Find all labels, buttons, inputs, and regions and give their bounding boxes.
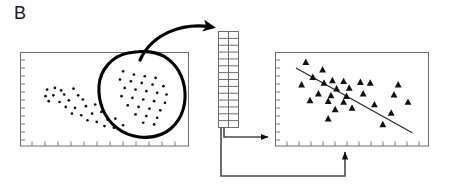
data-point [126, 104, 129, 107]
data-point [133, 73, 136, 76]
data-point [85, 105, 88, 108]
data-point [44, 95, 47, 98]
data-point [64, 106, 67, 109]
data-point [60, 89, 63, 92]
data-point [81, 98, 84, 101]
data-point [123, 87, 126, 90]
data-point [165, 93, 168, 96]
data-point [142, 121, 145, 124]
data-point [153, 123, 156, 126]
data-point [86, 119, 89, 122]
data-point [134, 88, 137, 91]
data-point [159, 109, 162, 112]
data-point [72, 87, 75, 90]
data-point [140, 82, 143, 85]
data-point [80, 114, 83, 117]
data-point [47, 100, 50, 103]
data-point [130, 80, 133, 83]
data-point [156, 116, 159, 119]
result-scatter-plot [276, 53, 429, 147]
data-point [145, 90, 148, 93]
data-point [120, 95, 123, 98]
data-point [153, 100, 156, 103]
data-point [103, 125, 106, 128]
feature-matrix [219, 32, 239, 128]
data-point [142, 98, 145, 101]
data-point [52, 94, 55, 97]
data-point [156, 92, 159, 95]
data-point [137, 106, 140, 109]
data-point [151, 83, 154, 86]
data-point [131, 96, 134, 99]
data-point [143, 75, 146, 78]
data-point [63, 93, 66, 96]
data-point [94, 103, 97, 106]
grid-to-plot-y-arrow [224, 128, 268, 138]
data-point [134, 113, 137, 116]
data-point [74, 106, 77, 109]
figure-canvas [0, 0, 450, 187]
data-point [122, 70, 125, 73]
data-point [58, 101, 61, 104]
data-point [154, 77, 157, 80]
cluster-blob-annotation [99, 51, 185, 137]
data-point [68, 99, 71, 102]
data-point [91, 112, 94, 115]
data-point [54, 87, 57, 90]
data-point [164, 101, 167, 104]
data-point [95, 121, 98, 124]
blob-outline [99, 51, 185, 137]
data-point [119, 78, 122, 81]
data-point [162, 85, 165, 88]
figure-panel-b: B [0, 0, 450, 187]
data-point [145, 115, 148, 118]
data-point [46, 88, 49, 91]
data-point [71, 112, 74, 115]
data-point [148, 107, 151, 110]
data-point [77, 94, 80, 97]
